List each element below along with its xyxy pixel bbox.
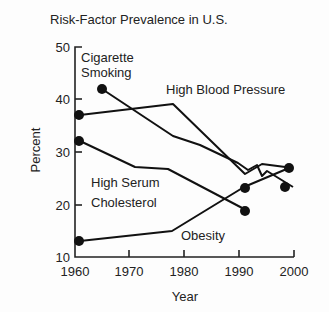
series-hbp bbox=[80, 104, 293, 174]
label-smoking-1: Cigarette bbox=[81, 50, 134, 65]
y-tick-labels: 50 40 30 20 10 bbox=[56, 40, 70, 265]
svg-text:2000: 2000 bbox=[280, 264, 309, 279]
chart: Risk-Factor Prevalence in U.S. 50 40 30 … bbox=[0, 0, 329, 312]
svg-text:20: 20 bbox=[56, 198, 70, 213]
svg-text:10: 10 bbox=[56, 250, 70, 265]
series-smoking bbox=[102, 89, 293, 187]
label-hbp: High Blood Pressure bbox=[166, 82, 285, 97]
svg-text:40: 40 bbox=[56, 92, 70, 107]
chart-title: Risk-Factor Prevalence in U.S. bbox=[50, 12, 228, 27]
label-obesity: Obesity bbox=[181, 228, 226, 243]
x-axis-label: Year bbox=[172, 289, 199, 304]
svg-text:1980: 1980 bbox=[170, 264, 199, 279]
svg-text:50: 50 bbox=[56, 40, 70, 55]
y-axis-label: Percent bbox=[28, 127, 43, 172]
svg-text:1960: 1960 bbox=[61, 264, 90, 279]
label-chol-1: High Serum bbox=[91, 175, 160, 190]
series-labels: Cigarette Smoking High Blood Pressure Hi… bbox=[81, 50, 285, 243]
label-chol-2: Cholesterol bbox=[91, 195, 157, 210]
x-tick-labels: 1960 1970 1980 1990 2000 bbox=[61, 264, 309, 279]
label-smoking-2: Smoking bbox=[81, 65, 132, 80]
svg-text:1970: 1970 bbox=[115, 264, 144, 279]
svg-text:30: 30 bbox=[56, 145, 70, 160]
svg-text:1990: 1990 bbox=[225, 264, 254, 279]
series-lines bbox=[80, 89, 293, 241]
